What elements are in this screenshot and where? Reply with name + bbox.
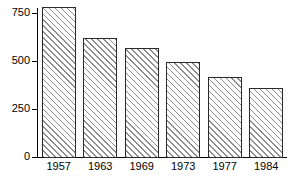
bar (125, 48, 159, 158)
y-axis-tick-label: 500 (0, 55, 30, 66)
x-axis-tick-label: 1957 (38, 161, 80, 172)
y-axis-tick-label: 0 (0, 151, 30, 162)
y-axis-tick (32, 13, 37, 14)
x-axis-tick-label: 1973 (163, 161, 205, 172)
x-axis-tick-label: 1984 (246, 161, 288, 172)
y-axis-tick-label: 750 (0, 7, 30, 18)
bar-chart-figure: 0250500750195719631969197319771984 (0, 0, 293, 185)
bars-layer (0, 0, 293, 185)
y-axis-tick (32, 109, 37, 110)
bar (208, 77, 242, 158)
bar (249, 88, 283, 158)
x-axis-tick-label: 1977 (204, 161, 246, 172)
y-axis-tick (32, 157, 37, 158)
y-axis-tick (32, 61, 37, 62)
bar (166, 62, 200, 158)
bar (83, 38, 117, 158)
bar (42, 7, 76, 158)
x-axis-tick-label: 1969 (121, 161, 163, 172)
y-axis-tick-label: 250 (0, 103, 30, 114)
x-axis-tick-label: 1963 (80, 161, 122, 172)
